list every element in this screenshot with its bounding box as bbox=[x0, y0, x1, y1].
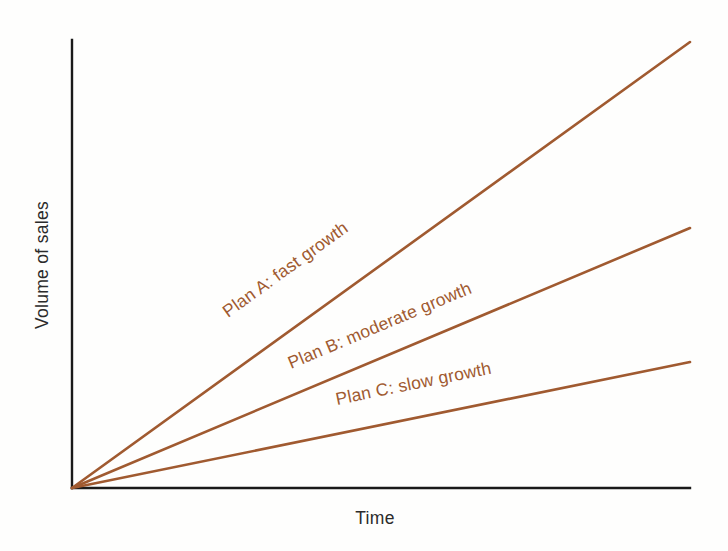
x-axis-label: Time bbox=[355, 508, 394, 528]
line-chart: Plan A: fast growth Plan B: moderate gro… bbox=[0, 0, 728, 551]
series-label-plan-c: Plan C: slow growth bbox=[334, 358, 493, 409]
y-axis-label: Volume of sales bbox=[32, 201, 52, 329]
series-line-plan-b bbox=[72, 228, 690, 488]
chart-container: Plan A: fast growth Plan B: moderate gro… bbox=[0, 0, 728, 551]
series-line-plan-a bbox=[72, 42, 690, 488]
series-label-plan-a: Plan A: fast growth bbox=[219, 217, 352, 321]
